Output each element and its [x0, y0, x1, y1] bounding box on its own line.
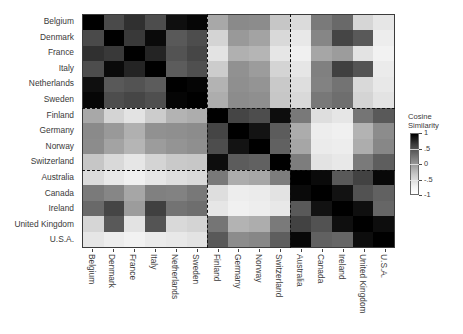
heatmap-cell — [332, 108, 353, 123]
heatmap-cell — [145, 15, 166, 30]
heatmap-cell — [290, 77, 311, 92]
heatmap-cell — [145, 154, 166, 169]
heatmap-cell — [124, 108, 145, 123]
heatmap-cell — [166, 15, 187, 30]
heatmap-cell — [207, 185, 228, 200]
heatmap-cell — [104, 154, 125, 169]
heatmap-cell — [270, 139, 291, 154]
heatmap-cell — [353, 77, 374, 92]
heatmap-cell — [228, 61, 249, 76]
heatmap-cell — [104, 92, 125, 107]
heatmap-cell — [373, 123, 394, 138]
heatmap-cell — [332, 77, 353, 92]
row-label: Italy — [0, 61, 78, 77]
heatmap-cell — [124, 216, 145, 231]
heatmap-cell — [270, 154, 291, 169]
heatmap-cell — [332, 123, 353, 138]
heatmap-cell — [83, 201, 104, 216]
x-axis-tick — [364, 249, 365, 252]
heatmap-cell — [145, 46, 166, 61]
heatmap-cell — [311, 232, 332, 247]
heatmap-cell — [290, 170, 311, 185]
heatmap-cell — [373, 216, 394, 231]
heatmap-cell — [249, 154, 270, 169]
heatmap-cell — [83, 185, 104, 200]
heatmap-cell — [187, 15, 208, 30]
cosine-similarity-heatmap-figure: BelgiumDenmarkFranceItalyNetherlandsSwed… — [0, 0, 463, 334]
heatmap-cell — [83, 92, 104, 107]
heatmap-cell — [228, 92, 249, 107]
heatmap-cell — [124, 77, 145, 92]
column-label-wrap: Finland — [207, 249, 228, 334]
heatmap-cell — [332, 216, 353, 231]
y-axis-row-labels: BelgiumDenmarkFranceItalyNetherlandsSwed… — [0, 14, 78, 248]
heatmap-cell — [228, 15, 249, 30]
heatmap-cell — [290, 216, 311, 231]
row-label: Switzerland — [0, 154, 78, 170]
heatmap-cell — [353, 123, 374, 138]
heatmap-cell — [124, 15, 145, 30]
heatmap-cell — [187, 123, 208, 138]
heatmap-cell — [249, 46, 270, 61]
heatmap-cell — [249, 201, 270, 216]
heatmap-cell — [207, 77, 228, 92]
heatmap-cell — [228, 77, 249, 92]
heatmap-cell — [228, 30, 249, 45]
heatmap-cell — [373, 15, 394, 30]
heatmap-cell — [249, 185, 270, 200]
heatmap-cell — [124, 92, 145, 107]
heatmap-cell — [290, 92, 311, 107]
heatmap-cell — [228, 46, 249, 61]
heatmap-cell — [83, 46, 104, 61]
x-axis-tick — [322, 249, 323, 252]
heatmap-cell — [290, 123, 311, 138]
heatmap-cell — [353, 216, 374, 231]
heatmap-cell — [104, 77, 125, 92]
heatmap-cell — [353, 15, 374, 30]
colorbar-tick — [419, 195, 422, 196]
heatmap-cell — [373, 170, 394, 185]
heatmap-cell — [207, 216, 228, 231]
heatmap-cell — [332, 92, 353, 107]
column-label: Switzerland — [275, 254, 283, 297]
column-label: France — [129, 254, 137, 280]
heatmap-cell — [311, 46, 332, 61]
heatmap-cell — [166, 216, 187, 231]
column-label: Australia — [296, 254, 304, 287]
column-label: Norway — [254, 254, 262, 282]
heatmap-cell — [290, 201, 311, 216]
x-axis-tick — [113, 249, 114, 252]
row-label: Ireland — [0, 201, 78, 217]
cluster-separator-vertical — [290, 14, 291, 248]
heatmap-cell — [249, 232, 270, 247]
heatmap-cell — [270, 15, 291, 30]
column-label-wrap: Sweden — [186, 249, 207, 334]
heatmap-cell — [373, 201, 394, 216]
x-axis-column-labels: BelgiumDenmarkFranceItalyNetherlandsSwed… — [82, 249, 395, 334]
colorbar-tick-label: 1 — [424, 129, 428, 136]
heatmap-cell — [353, 61, 374, 76]
cluster-separator-horizontal — [82, 170, 395, 171]
heatmap-cell — [270, 232, 291, 247]
x-axis-tick — [218, 249, 219, 252]
colorbar-tick — [419, 133, 422, 134]
row-label: Belgium — [0, 14, 78, 30]
heatmap-cell — [270, 185, 291, 200]
column-label: Canada — [317, 254, 325, 283]
column-label-wrap: U.S.A. — [374, 249, 395, 334]
colorbar-tick-label: .5 — [424, 145, 430, 152]
heatmap-cell — [104, 170, 125, 185]
heatmap-cell — [249, 170, 270, 185]
heatmap-cell — [187, 30, 208, 45]
x-axis-tick — [134, 249, 135, 252]
heatmap-cell — [270, 216, 291, 231]
heatmap-cell — [228, 201, 249, 216]
heatmap-cell — [311, 170, 332, 185]
heatmap-cell — [124, 46, 145, 61]
column-label-wrap: Ireland — [332, 249, 353, 334]
row-label: Sweden — [0, 92, 78, 108]
heatmap-cell — [207, 108, 228, 123]
heatmap-cell — [249, 77, 270, 92]
cluster-separator-vertical — [207, 14, 208, 248]
row-label: Canada — [0, 186, 78, 202]
